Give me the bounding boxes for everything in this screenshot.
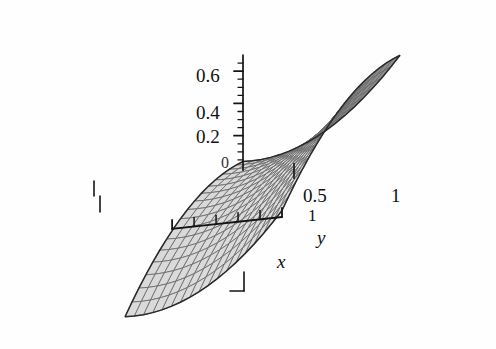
figure-canvas: 0.6 0.4 0.2 0 0.5 1 1 x y <box>0 0 496 349</box>
x-tick-label-1: 1 <box>308 207 317 224</box>
z-tick-label-0.6: 0.6 <box>196 66 220 85</box>
y-tick-label-0.5: 0.5 <box>303 186 327 205</box>
y-tick-label-1: 1 <box>391 186 401 205</box>
surface-plot-svg <box>0 0 496 349</box>
z-tick-label-0.4: 0.4 <box>196 103 220 122</box>
surface-mesh <box>125 55 400 317</box>
surface-edge <box>282 55 400 210</box>
z-tick-label-0.2: 0.2 <box>196 127 220 146</box>
y-axis-label: y <box>317 228 325 247</box>
z-tick-label-0: 0 <box>221 155 229 171</box>
x-axis-label: x <box>277 252 285 271</box>
